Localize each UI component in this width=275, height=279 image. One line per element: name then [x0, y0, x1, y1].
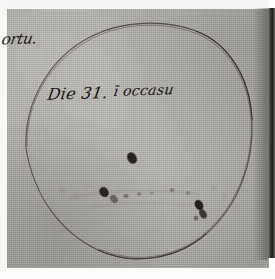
scan-gutter-shadow: [253, 8, 267, 260]
disc-inscription: Die 31. ī occasu: [46, 81, 175, 103]
margin-note-ortu: ortu.: [0, 29, 38, 48]
scan-bottom-margin: [0, 268, 275, 279]
inscription-day: Die 31.: [46, 83, 109, 104]
scan-top-margin: [6, 0, 269, 9]
paper-sheet: [6, 8, 269, 268]
paper-tone-variation: [6, 8, 269, 268]
inscription-time: ī occasu: [112, 81, 175, 99]
paper-grain-texture: [6, 8, 269, 268]
scan-gutter-edge: [267, 8, 275, 258]
manuscript-scan: ortu. Die 31. ī occasu: [0, 0, 275, 279]
